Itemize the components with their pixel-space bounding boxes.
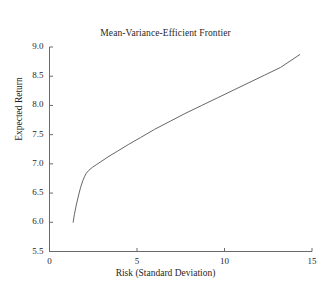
plot-area <box>0 0 331 284</box>
x-tick-label: 10 <box>212 256 238 266</box>
x-tick-label: 15 <box>299 256 325 266</box>
data-series-group <box>73 55 300 223</box>
y-tick-label: 9.0 <box>18 41 44 51</box>
axis-spines <box>50 47 313 252</box>
y-tick-label: 8.0 <box>18 99 44 109</box>
y-tick-label: 7.5 <box>18 129 44 139</box>
efficient-frontier-line <box>73 55 300 223</box>
y-tick-label: 5.5 <box>18 246 44 256</box>
chart-figure: Mean-Variance-Efficient Frontier Expecte… <box>0 0 331 284</box>
y-tick-marks <box>50 47 54 252</box>
x-tick-label: 0 <box>37 256 63 266</box>
x-tick-marks <box>137 248 312 252</box>
y-tick-label: 7.0 <box>18 158 44 168</box>
y-tick-label: 6.5 <box>18 187 44 197</box>
y-tick-label: 6.0 <box>18 216 44 226</box>
y-tick-label: 8.5 <box>18 70 44 80</box>
x-tick-label: 5 <box>124 256 150 266</box>
